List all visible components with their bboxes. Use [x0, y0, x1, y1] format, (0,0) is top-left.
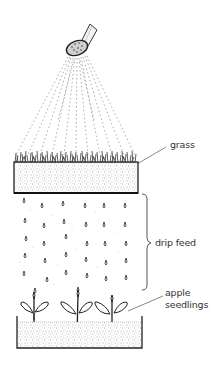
- diagram-canvas: [0, 0, 218, 372]
- grass-label: grass: [170, 139, 195, 150]
- apple-seedlings-label-line1: apple: [165, 287, 190, 298]
- drip-feed-label: drip feed: [155, 237, 196, 248]
- apple-seedlings-label-line2: seedlings: [165, 299, 208, 310]
- drip-drops: [20, 198, 128, 293]
- seedlings-leader-line: [128, 296, 163, 311]
- grass-tray: [14, 151, 138, 193]
- spray-lines: [16, 56, 135, 155]
- seedling-tray: [17, 316, 142, 348]
- grass-blades: [15, 151, 136, 163]
- watering-rose-icon: [64, 24, 97, 58]
- grass-leader-line: [137, 147, 166, 164]
- drip-feed-brace: [142, 194, 151, 290]
